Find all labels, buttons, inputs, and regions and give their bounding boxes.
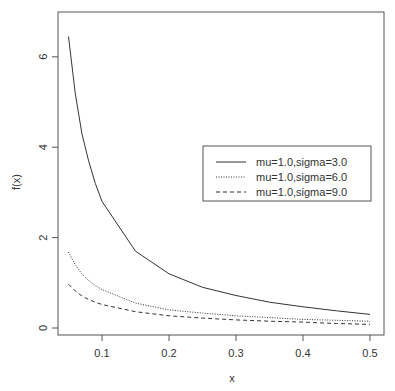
legend-label-0: mu=1.0,sigma=3.0 [256, 156, 347, 168]
x-axis: 0.10.20.30.40.5 [94, 335, 377, 359]
y-tick-label: 6 [37, 54, 49, 60]
x-tick-label: 0.2 [161, 347, 176, 359]
series-line-2 [69, 284, 371, 324]
x-tick-label: 0.1 [94, 347, 109, 359]
y-tick-label: 2 [37, 235, 49, 241]
legend-label-1: mu=1.0,sigma=6.0 [256, 171, 347, 183]
legend-label-2: mu=1.0,sigma=9.0 [256, 186, 347, 198]
x-tick-label: 0.3 [228, 347, 243, 359]
y-tick-label: 4 [37, 144, 49, 150]
y-axis-label: f(x) [10, 174, 22, 190]
y-tick-label: 0 [37, 325, 49, 331]
x-tick-label: 0.5 [362, 347, 377, 359]
line-chart: 0246 0.10.20.30.40.5 x f(x) mu=1.0,sigma… [0, 0, 395, 391]
legend: mu=1.0,sigma=3.0mu=1.0,sigma=6.0mu=1.0,s… [203, 146, 371, 201]
x-tick-label: 0.4 [295, 347, 310, 359]
y-axis: 0246 [37, 54, 58, 331]
series-line-1 [69, 252, 371, 321]
x-axis-label: x [229, 372, 235, 384]
